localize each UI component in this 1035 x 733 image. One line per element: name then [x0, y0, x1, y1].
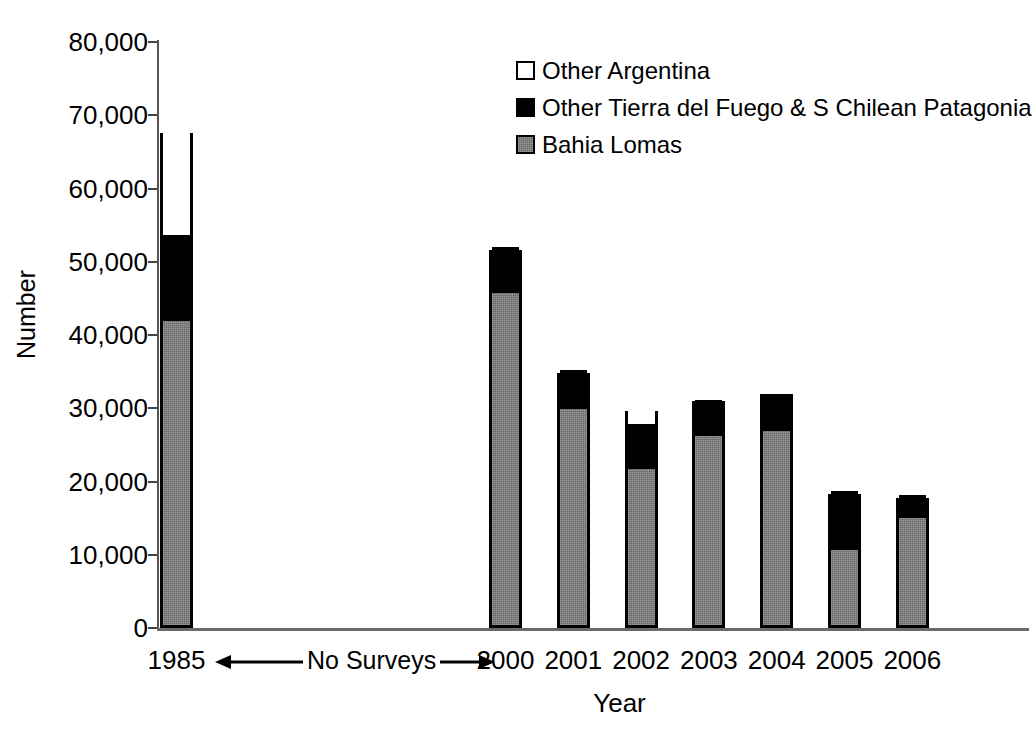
- legend-swatch-icon: [516, 61, 535, 80]
- legend-swatch-icon: [516, 135, 535, 154]
- bar-segment: [492, 293, 519, 625]
- bar-segment: [628, 408, 655, 424]
- bar-segment: [899, 518, 926, 625]
- bar-segment: [831, 491, 858, 550]
- bar-segment: [492, 247, 519, 293]
- bar-2003[interactable]: [692, 401, 725, 628]
- x-axis-tick-label: 2006: [867, 645, 957, 675]
- bar-segment: [695, 398, 722, 400]
- legend-item-label: Bahia Lomas: [542, 132, 682, 158]
- legend-item[interactable]: Other Tierra del Fuego & S Chilean Patag…: [516, 89, 1016, 126]
- bar-segment: [560, 370, 587, 409]
- bar-segment: [763, 391, 790, 394]
- bar-segment: [163, 130, 190, 235]
- bar-segment: [695, 400, 722, 436]
- x-axis-title-text: Year: [593, 688, 646, 718]
- bar-chart: Number 80,00070,00060,00050,00040,00030,…: [0, 0, 1035, 733]
- bar-segment: [163, 235, 190, 321]
- bar-segment: [695, 436, 722, 625]
- bar-segment: [560, 409, 587, 625]
- no-surveys-annotation: No Surveys: [215, 648, 495, 676]
- bar-2004[interactable]: [760, 394, 793, 628]
- bar-segment: [628, 469, 655, 625]
- bar-2006[interactable]: [896, 498, 929, 628]
- bar-2002[interactable]: [625, 411, 658, 628]
- bar-segment: [163, 321, 190, 625]
- bar-2000[interactable]: [489, 250, 522, 628]
- bar-1985[interactable]: [160, 133, 193, 628]
- legend-item[interactable]: Other Argentina: [516, 52, 1016, 89]
- bar-segment: [763, 431, 790, 625]
- x-axis-tick-label: 1985: [132, 645, 222, 675]
- legend-item[interactable]: Bahia Lomas: [516, 126, 1016, 163]
- bar-2001[interactable]: [557, 373, 590, 628]
- legend-swatch-icon: [516, 98, 535, 117]
- bar-segment: [899, 495, 926, 518]
- bar-2005[interactable]: [828, 494, 861, 628]
- x-axis-title: Year: [0, 688, 1035, 719]
- bar-segment: [763, 394, 790, 431]
- legend: Other ArgentinaOther Tierra del Fuego & …: [516, 52, 1016, 163]
- bar-segment: [628, 424, 655, 469]
- bar-segment: [831, 550, 858, 625]
- no-surveys-label: No Surveys: [303, 646, 440, 674]
- legend-item-label: Other Argentina: [542, 58, 710, 84]
- legend-item-label: Other Tierra del Fuego & S Chilean Patag…: [542, 95, 1032, 121]
